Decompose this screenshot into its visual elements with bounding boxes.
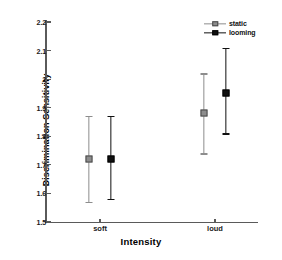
error-bar-cap-lower [108,199,115,200]
legend-label-looming: looming [229,29,256,36]
y-tick-label: 1.8 [37,132,46,141]
y-tick-mark [47,136,51,137]
legend-marker-looming-icon [204,28,226,37]
x-axis-line [45,222,258,224]
error-bar-point [198,71,210,155]
error-bar-cap-upper [201,73,208,74]
y-tick-label: 1.9 [37,103,46,112]
error-bar-point [105,114,117,201]
error-bar-cap-upper [86,116,93,117]
y-tick-mark [47,21,51,22]
legend-marker-static-icon [204,19,226,28]
x-axis-title: Intensity [0,236,282,247]
y-tick-mark [47,107,51,108]
y-tick-label: 1.7 [37,160,46,169]
error-bar-cap-upper [108,116,115,117]
y-tick-mark [47,193,51,194]
data-point-marker [86,156,93,163]
error-bar-cap-lower [201,153,208,154]
data-point-marker [108,156,115,163]
y-tick-mark [47,221,51,222]
chart-figure: Discrimination Sensitivity 1.51.61.71.81… [0,0,282,260]
error-bar-point [220,46,232,136]
x-tick-label: soft [93,224,107,233]
y-tick-label: 1.6 [37,189,46,198]
data-point-marker [201,110,208,117]
y-tick-label: 1.5 [37,218,46,227]
legend-label-static: static [229,20,247,27]
y-tick-label: 2.1 [37,46,46,55]
x-tick-label: loud [207,224,223,233]
data-point-marker [223,90,230,97]
error-bar-point [83,114,95,204]
chart-legend: static looming [204,19,256,37]
error-bar-cap-lower [223,133,230,134]
error-bar-cap-lower [86,202,93,203]
x-tick-mark [99,219,100,223]
y-tick-mark [47,79,51,80]
x-tick-mark [214,219,215,223]
error-bar-cap-upper [223,48,230,49]
y-tick-mark [47,50,51,51]
y-tick-label: 2.2 [37,18,46,27]
y-tick-mark [47,164,51,165]
legend-item-static[interactable]: static [204,19,256,28]
y-tick-label: 2 [42,75,46,84]
legend-item-looming[interactable]: looming [204,28,256,37]
